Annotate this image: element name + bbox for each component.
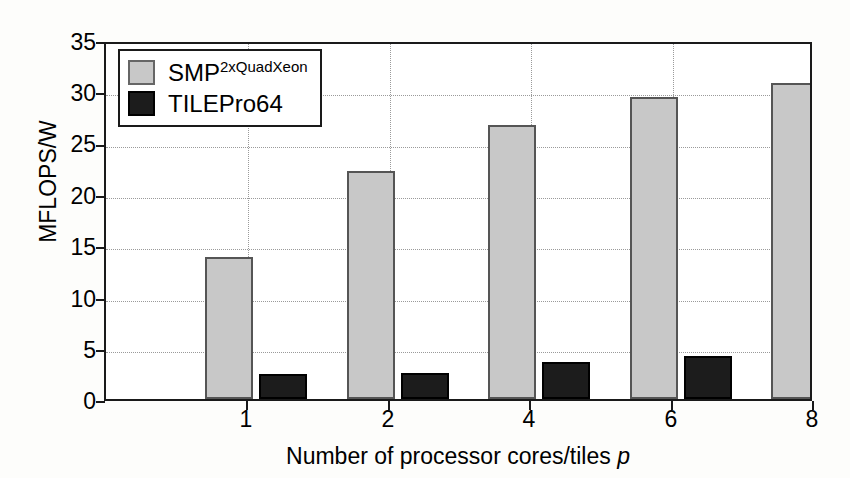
legend-label-smp: SMP2xQuadXeon: [168, 61, 308, 85]
gridline-25: [106, 147, 810, 148]
chart-legend: SMP2xQuadXeon TILEPro64: [118, 49, 322, 127]
x-tick-label-4: 4: [499, 408, 559, 431]
bar-chart-figure: MFLOPS/W 35 30 25 20 15 10 5 0: [0, 0, 850, 478]
x-axis-title-variable: p: [617, 443, 630, 469]
legend-entry-tile: TILEPro64: [128, 88, 308, 119]
y-tick-label-5: 5: [48, 339, 96, 362]
x-tick-label-8: 8: [782, 408, 842, 431]
y-tick-label-30: 30: [48, 82, 96, 105]
x-tick-label-6: 6: [641, 408, 701, 431]
bar-smp-4: [488, 125, 536, 399]
gridline-20: [106, 198, 810, 199]
y-tick-label-25: 25: [48, 133, 96, 156]
legend-label-smp-sup: 2xQuadXeon: [220, 58, 308, 75]
bar-tile-6: [684, 356, 732, 399]
bar-tile-4: [542, 362, 590, 399]
bar-tile-1: [259, 374, 307, 399]
y-tick-label-20: 20: [48, 185, 96, 208]
page-bleed-artifact: [40, 6, 44, 23]
bar-smp-1: [205, 257, 253, 399]
legend-swatch-tile-icon: [128, 91, 155, 116]
legend-swatch-smp-icon: [128, 60, 155, 85]
y-tick-mark-0: [96, 401, 105, 403]
x-tick-label-1: 1: [216, 408, 276, 431]
bar-smp-8: [771, 83, 812, 399]
y-tick-label-35: 35: [48, 31, 96, 54]
x-axis-title: Number of processor cores/tiles p: [104, 443, 812, 470]
y-tick-label-15: 15: [48, 236, 96, 259]
bar-smp-6: [630, 97, 678, 399]
bar-smp-2: [347, 171, 395, 399]
y-tick-label-10: 10: [48, 288, 96, 311]
legend-label-tile: TILEPro64: [168, 92, 283, 116]
legend-entry-smp: SMP2xQuadXeon: [128, 57, 308, 88]
y-tick-label-0: 0: [48, 390, 96, 413]
x-tick-label-2: 2: [358, 408, 418, 431]
x-axis-title-main: Number of processor cores/tiles: [286, 443, 611, 469]
legend-label-smp-base: SMP: [168, 59, 220, 86]
gridline-15: [106, 249, 810, 250]
bar-tile-2: [401, 373, 449, 399]
